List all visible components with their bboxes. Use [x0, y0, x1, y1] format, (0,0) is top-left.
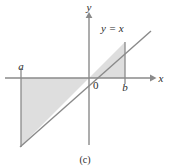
label-b: b	[122, 81, 128, 93]
origin-label: 0	[93, 79, 99, 91]
x-axis-arrowhead	[150, 74, 157, 81]
left-shaded-triangle	[21, 78, 89, 146]
x-axis-label: x	[158, 72, 164, 84]
figure-container: y x 0 a b y = x (c)	[0, 0, 170, 168]
label-a: a	[18, 60, 24, 72]
equation-label-y-equals-x: y = x	[100, 22, 124, 34]
figure-caption: (c)	[79, 154, 90, 166]
coordinate-plane-diagram: y x 0 a b y = x (c)	[0, 0, 170, 168]
right-shaded-triangle	[89, 42, 125, 78]
y-axis-label: y	[86, 1, 92, 13]
shaded-regions	[21, 42, 125, 146]
